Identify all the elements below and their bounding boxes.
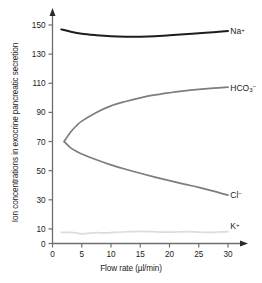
- x-axis-tick-label: 10: [106, 250, 115, 259]
- x-axis-tick-label: 30: [223, 250, 232, 259]
- series-line-1: [64, 87, 228, 141]
- x-axis-tick-label: 5: [79, 250, 84, 259]
- x-axis-title: Flow rate (µl/min): [0, 264, 262, 273]
- chart-figure: Ion concentrations in exocrine pancreati…: [0, 0, 262, 283]
- y-axis-tick-label: 0: [10, 239, 46, 248]
- series-line-3: [61, 231, 228, 233]
- series-label-K⁺: K+: [230, 221, 239, 232]
- x-axis-tick-label: 15: [136, 250, 145, 259]
- y-axis-tick-label: 150: [10, 21, 46, 30]
- series-label-HCO₃⁻: HCO3−: [230, 82, 256, 93]
- series-line-2: [64, 142, 228, 196]
- y-axis-tick-label: 90: [10, 108, 46, 117]
- series-label-Na⁺: Na+: [230, 26, 245, 37]
- x-axis-tick-label: 25: [194, 250, 203, 259]
- y-axis-tick-label: 110: [10, 79, 46, 88]
- series-line-0: [61, 29, 228, 36]
- y-axis-arrow: [50, 8, 56, 16]
- y-axis-tick-label: 130: [10, 50, 46, 59]
- x-axis-tick-label: 0: [50, 250, 55, 259]
- y-axis-tick-label: 50: [10, 166, 46, 175]
- y-axis-tick-label: 30: [10, 195, 46, 204]
- x-axis-arrow: [240, 241, 248, 247]
- y-axis-tick-label: 70: [10, 137, 46, 146]
- series-label-Cl⁻: Cl−: [230, 190, 242, 201]
- x-axis-tick-label: 20: [165, 250, 174, 259]
- y-axis-tick-label: 10: [10, 224, 46, 233]
